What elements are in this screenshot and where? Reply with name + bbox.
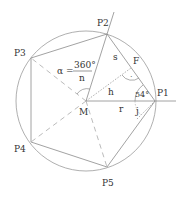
angle-54-label: 54° bbox=[135, 90, 149, 99]
label-j: j bbox=[135, 106, 139, 116]
label-r: r bbox=[119, 104, 124, 114]
label-m: M bbox=[79, 107, 88, 117]
label-p5: P5 bbox=[102, 178, 114, 188]
dashed-radius-p4 bbox=[31, 101, 86, 142]
dotted-j bbox=[136, 101, 155, 120]
label-p2: P2 bbox=[97, 18, 109, 28]
label-f: F bbox=[133, 56, 139, 66]
label-p3: P3 bbox=[14, 48, 26, 58]
label-p1: P1 bbox=[157, 88, 169, 98]
alpha-symbol: α = bbox=[57, 66, 73, 76]
label-p4: P4 bbox=[14, 144, 26, 154]
label-s: s bbox=[113, 52, 118, 62]
pentagon-diagram: P2 P3 P1 P4 P5 M F s h r j · 54° α = 360… bbox=[0, 0, 185, 197]
right-angle-mark: · bbox=[130, 72, 133, 81]
label-h: h bbox=[108, 87, 114, 97]
dashed-radius-p5 bbox=[86, 101, 107, 167]
pentagon bbox=[31, 34, 155, 167]
alpha-numerator: 360° bbox=[74, 60, 96, 70]
alpha-denominator: n bbox=[79, 73, 85, 83]
